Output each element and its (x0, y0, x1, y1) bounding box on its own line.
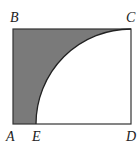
label-c: C (126, 10, 136, 25)
shaded-region (13, 29, 131, 124)
label-a: A (5, 129, 15, 144)
label-e: E (31, 129, 41, 144)
geometry-diagram: B C A E D (0, 0, 139, 145)
label-d: D (125, 129, 136, 144)
label-b: B (10, 10, 19, 25)
